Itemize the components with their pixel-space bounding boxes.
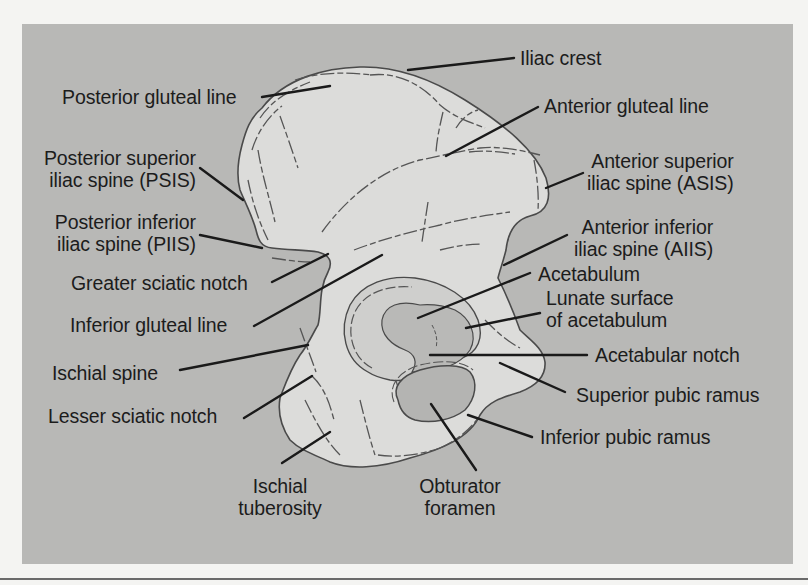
label-psis: Posterior superior iliac spine (PSIS) — [26, 147, 196, 191]
label-iliac-crest: Iliac crest — [520, 47, 601, 69]
label-acetabular-notch: Acetabular notch — [595, 344, 740, 366]
leader-asis — [546, 173, 583, 188]
leader-aiis — [504, 235, 567, 265]
label-lesser-sciatic-notch: Lesser sciatic notch — [48, 405, 217, 427]
label-lunate-surface: Lunate surface of acetabulum — [546, 287, 674, 331]
label-acetabulum: Acetabulum — [538, 263, 640, 285]
label-aiis-line1: Anterior inferior — [574, 216, 713, 238]
leader-inferior-pubic-ramus — [468, 415, 532, 437]
label-posterior-gluteal-line: Posterior gluteal line — [62, 86, 236, 108]
leader-psis — [200, 168, 243, 200]
label-greater-sciatic-notch: Greater sciatic notch — [71, 272, 248, 294]
label-obturator-foramen-line2: foramen — [400, 497, 520, 519]
label-anterior-gluteal-line: Anterior gluteal line — [544, 95, 709, 117]
bottom-rule — [0, 578, 808, 580]
label-asis-line1: Anterior superior — [587, 150, 734, 172]
label-ischial-tuberosity-line1: Ischial — [220, 475, 340, 497]
leader-ischial-spine — [180, 345, 308, 370]
leader-iliac-crest — [408, 58, 514, 70]
label-piis-line1: Posterior inferior — [26, 211, 196, 233]
label-inferior-pubic-ramus: Inferior pubic ramus — [540, 426, 710, 448]
label-obturator-foramen-line1: Obturator — [400, 475, 520, 497]
label-lunate-line1: Lunate surface — [546, 287, 674, 309]
leader-piis — [200, 235, 262, 248]
label-asis: Anterior superior iliac spine (ASIS) — [587, 150, 734, 194]
label-lunate-line2: of acetabulum — [546, 309, 674, 331]
label-ischial-tuberosity: Ischial tuberosity — [220, 475, 340, 519]
label-inferior-gluteal-line: Inferior gluteal line — [70, 314, 227, 336]
label-piis-line2: iliac spine (PIIS) — [26, 233, 196, 255]
label-asis-line2: iliac spine (ASIS) — [587, 172, 734, 194]
leader-greater-sciatic-notch — [272, 254, 328, 282]
label-piis: Posterior inferior iliac spine (PIIS) — [26, 211, 196, 255]
label-aiis: Anterior inferior iliac spine (AIIS) — [574, 216, 713, 260]
label-superior-pubic-ramus: Superior pubic ramus — [576, 384, 759, 406]
label-ischial-tuberosity-line2: tuberosity — [220, 497, 340, 519]
label-psis-line2: iliac spine (PSIS) — [26, 169, 196, 191]
label-psis-line1: Posterior superior — [26, 147, 196, 169]
label-obturator-foramen: Obturator foramen — [400, 475, 520, 519]
label-ischial-spine: Ischial spine — [52, 362, 158, 384]
label-aiis-line2: iliac spine (AIIS) — [574, 238, 713, 260]
